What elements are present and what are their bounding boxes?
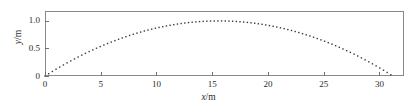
data-point [254, 23, 255, 24]
y-axis-tick-mark [45, 48, 49, 49]
data-point [383, 70, 384, 71]
data-point [357, 55, 358, 56]
data-point [272, 26, 273, 27]
data-point [169, 25, 170, 26]
data-point [239, 21, 240, 22]
data-point [144, 30, 145, 31]
x-axis-tick-mark [101, 72, 102, 76]
data-point [283, 28, 284, 29]
data-point [70, 60, 71, 61]
data-point [265, 24, 266, 25]
data-point [155, 28, 156, 29]
data-point [195, 21, 196, 22]
data-point [191, 22, 192, 23]
data-point [364, 59, 365, 60]
data-point [372, 63, 373, 64]
data-point [342, 48, 343, 49]
data-point [386, 72, 387, 73]
data-point [147, 29, 148, 30]
data-point [228, 20, 229, 21]
data-point [280, 27, 281, 28]
data-point [133, 34, 134, 35]
y-axis-tick-label: 0 [18, 72, 40, 81]
y-axis-label-variable: y [13, 40, 23, 44]
data-point [103, 44, 104, 45]
data-point [107, 43, 108, 44]
data-point [85, 53, 86, 54]
data-point [158, 27, 159, 28]
data-point [52, 71, 53, 72]
data-point [368, 61, 369, 62]
data-point [140, 31, 141, 32]
data-point [59, 66, 60, 67]
data-point [214, 20, 215, 21]
data-point [320, 39, 321, 40]
data-point [331, 43, 332, 44]
data-point [250, 22, 251, 23]
data-point [92, 49, 93, 50]
x-axis-tick-mark [156, 72, 157, 76]
data-point [390, 74, 391, 75]
data-point [77, 56, 78, 57]
x-axis-label-unit: /m [206, 92, 216, 102]
data-point [74, 58, 75, 59]
data-point [217, 20, 218, 21]
data-point [287, 29, 288, 30]
data-point [346, 50, 347, 51]
data-point [276, 26, 277, 27]
x-axis-tick-label: 0 [33, 80, 57, 89]
data-point [125, 36, 126, 37]
data-point [298, 32, 299, 33]
data-point [269, 25, 270, 26]
data-point [114, 40, 115, 41]
data-point [243, 21, 244, 22]
data-point [306, 34, 307, 35]
data-point [206, 20, 207, 21]
x-axis-tick-mark [212, 72, 213, 76]
x-axis-tick-mark [379, 72, 380, 76]
data-point [324, 41, 325, 42]
data-point [129, 35, 130, 36]
data-point [353, 53, 354, 54]
x-axis-tick-label: 15 [200, 80, 224, 89]
data-point [379, 67, 380, 68]
x-axis-tick-label: 10 [144, 80, 168, 89]
data-point [291, 30, 292, 31]
data-point [177, 23, 178, 24]
data-point [63, 64, 64, 65]
x-axis-tick-label: 25 [312, 80, 336, 89]
data-point [162, 26, 163, 27]
data-point [48, 73, 49, 74]
y-axis-label-unit: /m [13, 30, 23, 40]
y-axis-label: y/m [13, 25, 23, 49]
data-point [328, 42, 329, 43]
x-axis-tick-label: 20 [256, 80, 280, 89]
data-point [122, 37, 123, 38]
data-point [188, 22, 189, 23]
y-axis-tick-mark [45, 76, 49, 77]
data-point [151, 28, 152, 29]
x-axis-tick-label: 5 [89, 80, 113, 89]
data-point [309, 35, 310, 36]
data-point [81, 54, 82, 55]
data-point [350, 52, 351, 53]
data-point [335, 45, 336, 46]
y-axis-tick-mark [45, 21, 49, 22]
data-point [199, 21, 200, 22]
data-point [302, 33, 303, 34]
data-point [184, 22, 185, 23]
data-point [221, 20, 222, 21]
data-point [317, 38, 318, 39]
data-point [225, 20, 226, 21]
data-point [236, 21, 237, 22]
data-point [339, 47, 340, 48]
data-point [111, 41, 112, 42]
x-axis-tick-label: 30 [367, 80, 391, 89]
data-point [180, 23, 181, 24]
data-point [173, 24, 174, 25]
data-point [136, 32, 137, 33]
data-point [99, 46, 100, 47]
x-axis-label: x/m [0, 92, 417, 102]
data-point [375, 65, 376, 66]
data-point [96, 48, 97, 49]
